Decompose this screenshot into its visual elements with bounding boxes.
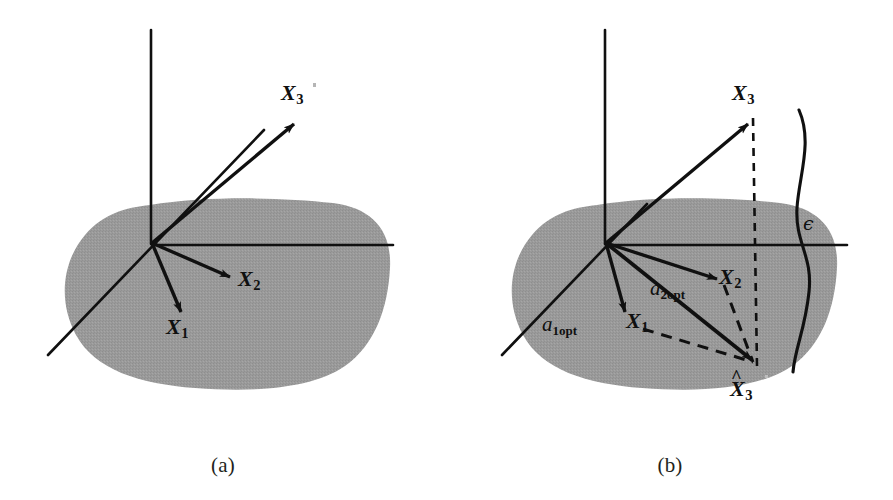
label-a1opt-panel-b: a1opt [542, 314, 577, 337]
scan-speck [765, 375, 768, 378]
caption-panel-a: (a) [0, 453, 446, 478]
label-x1-panel-b: X1 [626, 310, 648, 335]
label-x3-hat-panel-b: ^X3 [730, 378, 752, 403]
label-a2opt-panel-b: a2opt [650, 278, 685, 301]
subspace-region [65, 198, 390, 389]
caption-panel-b: (b) [447, 453, 893, 478]
figure-root: X1 X2 X3 (a) [0, 0, 893, 500]
panel-a: X1 X2 X3 (a) [0, 0, 446, 500]
panel-b: a1opt X1 a2opt X2 X3 ^X3 ϵ (b) [447, 0, 893, 500]
scan-speck [313, 83, 316, 87]
label-x3-panel-a: X3 [281, 82, 303, 107]
label-x2-panel-a: X2 [238, 268, 260, 293]
panel-a-canvas [0, 0, 446, 500]
label-x1-panel-a: X1 [166, 316, 188, 341]
panel-b-canvas [447, 0, 893, 500]
label-epsilon-panel-b: ϵ [803, 214, 814, 233]
label-x2-panel-b: X2 [719, 266, 741, 291]
label-x3-panel-b: X3 [732, 82, 754, 107]
